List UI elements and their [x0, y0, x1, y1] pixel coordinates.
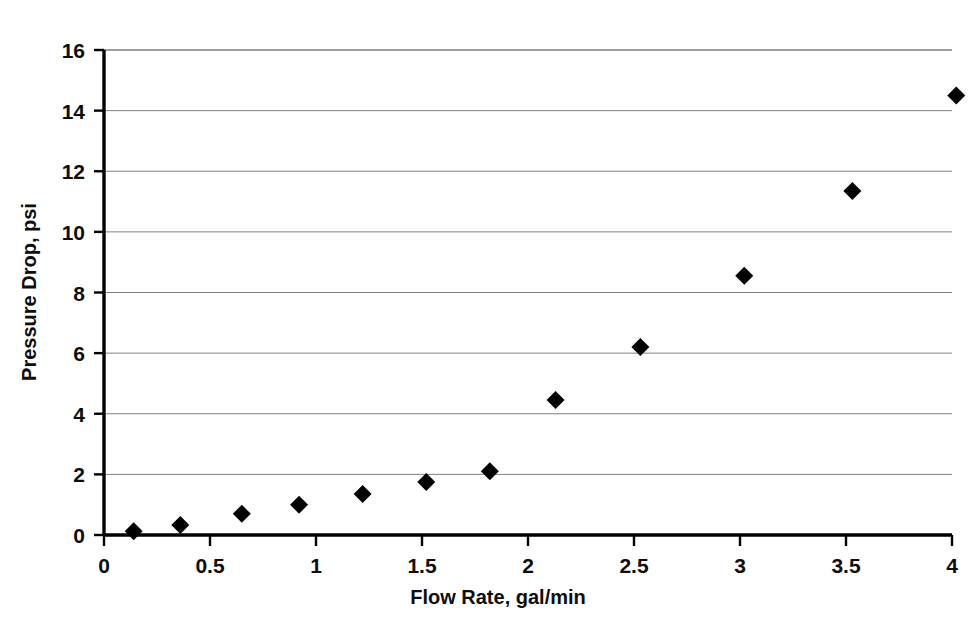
data-point	[547, 391, 565, 409]
y-tick-label: 2	[73, 463, 85, 486]
y-tick-label: 10	[62, 221, 85, 244]
x-tick-label: 1	[310, 554, 322, 577]
data-point	[354, 485, 372, 503]
x-tick-label: 3.5	[831, 554, 861, 577]
data-point	[947, 86, 965, 104]
data-point	[481, 462, 499, 480]
data-point	[171, 516, 189, 534]
data-point	[417, 473, 435, 491]
data-point	[290, 496, 308, 514]
y-axis-tick-labels: 0246810121416	[62, 39, 86, 547]
gridlines-group	[104, 50, 952, 474]
y-tick-label: 0	[73, 524, 85, 547]
chart-container: 00.511.522.533.54 0246810121416 Flow Rat…	[0, 0, 980, 638]
x-axis-tick-labels: 00.511.522.533.54	[98, 554, 958, 577]
x-tick-label: 4	[946, 554, 958, 577]
y-tick-label: 6	[73, 342, 85, 365]
data-point	[125, 522, 143, 540]
y-tick-label: 16	[62, 39, 85, 62]
x-tick-label: 2.5	[619, 554, 649, 577]
x-tick-label: 0	[98, 554, 110, 577]
y-tick-label: 14	[62, 100, 86, 123]
y-axis-title: Pressure Drop, psi	[18, 203, 40, 381]
data-point	[843, 182, 861, 200]
x-axis-title: Flow Rate, gal/min	[410, 586, 586, 608]
x-tick-label: 2	[522, 554, 534, 577]
y-tick-label: 8	[73, 282, 85, 305]
data-point-markers	[125, 86, 966, 540]
y-tick-label: 4	[73, 403, 85, 426]
y-tick-label: 12	[62, 160, 85, 183]
x-tick-label: 1.5	[407, 554, 437, 577]
data-point	[233, 505, 251, 523]
x-tick-label: 0.5	[195, 554, 225, 577]
scatter-plot-svg: 00.511.522.533.54 0246810121416 Flow Rat…	[0, 0, 980, 638]
data-point	[735, 267, 753, 285]
x-tick-label: 3	[734, 554, 746, 577]
